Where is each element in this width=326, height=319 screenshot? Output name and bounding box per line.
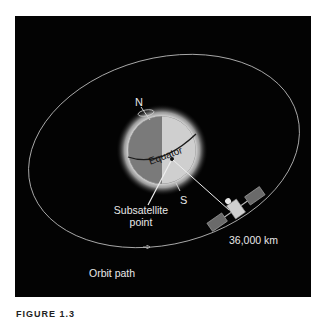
diagram-panel: N S Equator Subsatellite point 36,000 km… bbox=[15, 16, 311, 297]
south-label: S bbox=[180, 194, 187, 206]
subsatellite-label-line1: Subsatellite bbox=[101, 205, 181, 217]
north-label: N bbox=[135, 96, 143, 108]
orbit-path-label: Orbit path bbox=[89, 268, 135, 280]
altitude-label: 36,000 km bbox=[229, 235, 278, 247]
subsatellite-label: Subsatellite point bbox=[101, 205, 181, 228]
subsatellite-label-line2: point bbox=[101, 217, 181, 229]
figure-caption: FIGURE 1.3 bbox=[16, 309, 75, 319]
